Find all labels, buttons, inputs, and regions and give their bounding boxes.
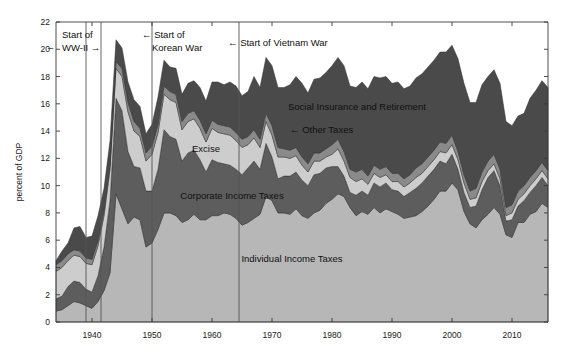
stacked-area-chart: 0246810121416182022194019501960197019801… <box>0 0 571 354</box>
y-tick-label: 18 <box>41 72 51 82</box>
y-axis-title: percent of GDP <box>14 142 24 201</box>
x-tick-label: 2000 <box>443 330 462 340</box>
annotation-vietnam-line1: ← Start of Vietnam War <box>228 37 328 48</box>
annotation-korea-line1: ← Start of <box>142 29 185 40</box>
series-label-other-taxes: ← Other Taxes <box>290 124 353 135</box>
y-tick-label: 4 <box>45 262 50 272</box>
series-label-individual-income-taxes: Individual Income Taxes <box>241 253 342 264</box>
y-tick-label: 12 <box>41 153 51 163</box>
y-tick-label: 16 <box>41 99 51 109</box>
annotation-ww2-left-arrow-icon: – <box>48 42 54 53</box>
y-tick-label: 6 <box>45 235 50 245</box>
figure-container: 0246810121416182022194019501960197019801… <box>0 0 571 354</box>
y-tick-label: 2 <box>45 290 50 300</box>
series-label-social-insurance-and-retirement: Social Insurance and Retirement <box>288 101 426 112</box>
x-tick-label: 1940 <box>83 330 102 340</box>
y-tick-label: 14 <box>41 126 51 136</box>
x-tick-label: 1970 <box>263 330 282 340</box>
y-tick-label: 10 <box>41 181 51 191</box>
annotation-ww2-line2: WW-II → <box>62 42 100 53</box>
series-label-excise: Excise <box>192 143 220 154</box>
y-tick-label: 22 <box>41 17 51 27</box>
y-tick-label: 8 <box>45 208 50 218</box>
series-label-corporate-income-taxes: Corporate Income Taxes <box>180 190 284 201</box>
y-tick-label: 0 <box>45 317 50 327</box>
x-tick-label: 2010 <box>503 330 522 340</box>
annotation-korea-line2: Korean War <box>152 42 202 53</box>
x-tick-label: 1980 <box>323 330 342 340</box>
x-tick-label: 1990 <box>383 330 402 340</box>
x-tick-label: 1950 <box>143 330 162 340</box>
annotation-ww2-line1: Start of <box>62 29 93 40</box>
x-tick-label: 1960 <box>203 330 222 340</box>
